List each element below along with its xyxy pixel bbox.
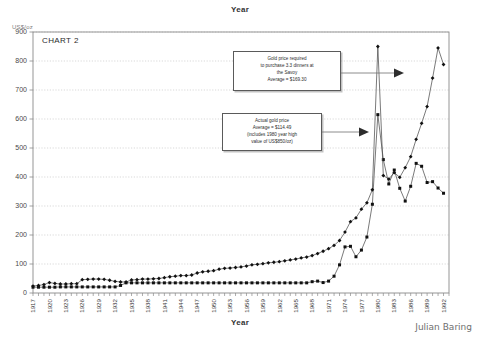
series-marker: [206, 269, 210, 273]
series-marker: [119, 280, 123, 284]
series-marker: [179, 274, 183, 278]
series-marker: [289, 281, 292, 284]
series-marker: [92, 285, 95, 288]
series-marker: [398, 187, 401, 190]
callout-line-1: Actual gold price: [227, 117, 317, 124]
series-marker: [338, 263, 341, 266]
series-marker: [108, 278, 112, 282]
series-marker: [102, 277, 106, 281]
x-tick-label: 1935: [128, 298, 135, 312]
series-marker: [250, 281, 253, 284]
series-marker: [245, 281, 248, 284]
series-marker: [223, 266, 227, 270]
series-marker: [212, 269, 216, 273]
y-tick-marks: [30, 32, 34, 293]
series-marker: [365, 236, 368, 239]
x-tick-label: 1968: [308, 298, 315, 312]
series-marker: [404, 200, 407, 203]
series-marker: [201, 270, 205, 274]
series-marker: [75, 285, 78, 288]
series-marker: [436, 46, 440, 50]
x-tick-label: 1941: [161, 298, 168, 312]
series-marker: [81, 285, 84, 288]
series-marker: [174, 281, 177, 284]
series-marker: [48, 281, 52, 285]
series-marker: [283, 281, 286, 284]
chart-figure: Year US$/oz CHART 2 01002003004005006007…: [0, 0, 480, 342]
series-marker: [414, 137, 418, 141]
series-marker: [179, 281, 182, 284]
series-marker: [376, 45, 380, 49]
series-marker: [305, 255, 309, 259]
x-tick-label: 1983: [390, 298, 397, 312]
gold-price-required-callout: Gold price required to purchase 3.3 dinn…: [233, 51, 341, 91]
series-marker: [354, 255, 357, 258]
series-marker: [245, 264, 249, 268]
series-marker: [267, 281, 270, 284]
series-marker: [294, 257, 298, 261]
callout-line-3: the Savoy: [238, 69, 336, 76]
series-marker: [113, 280, 117, 284]
y-tick-label: 200: [15, 231, 27, 238]
series-marker: [409, 155, 413, 159]
series-marker: [217, 267, 221, 271]
series-marker: [322, 281, 325, 284]
series-marker: [376, 113, 379, 116]
x-tick-label: 1920: [46, 298, 53, 312]
series-marker: [277, 260, 281, 264]
series-marker: [48, 286, 51, 289]
x-tick-label: 1965: [292, 298, 299, 312]
series-marker: [415, 162, 418, 165]
x-tick-label: 1923: [62, 298, 69, 312]
series-marker: [437, 187, 440, 190]
series-marker: [343, 230, 347, 234]
series-marker: [239, 265, 243, 269]
series-marker: [261, 262, 265, 266]
series-marker: [425, 105, 429, 109]
series-marker: [272, 260, 276, 264]
series-marker: [327, 280, 330, 283]
series-marker: [64, 282, 68, 286]
series-marker: [333, 275, 336, 278]
series-marker: [327, 247, 331, 251]
series-marker: [212, 281, 215, 284]
x-tick-label: 1938: [144, 298, 151, 312]
bottom-axis-title: Year: [0, 318, 480, 327]
series-marker: [229, 281, 232, 284]
x-tick-label: 1956: [243, 298, 250, 312]
x-tick-label: 1929: [95, 298, 102, 312]
x-tick-label: 1953: [226, 298, 233, 312]
series-marker: [266, 261, 270, 265]
x-tick-label: 1992: [440, 298, 447, 312]
series-marker: [409, 185, 412, 188]
callout-line-2: Average = $114.49: [227, 124, 317, 131]
series-marker: [69, 282, 73, 286]
series-marker: [136, 281, 139, 284]
x-tick-label: 1959: [259, 298, 266, 312]
series-marker: [403, 166, 407, 170]
series-marker: [207, 281, 210, 284]
series-marker: [349, 245, 352, 248]
series-marker: [310, 254, 314, 258]
series-marker: [426, 181, 429, 184]
callout-line-4: Average = $169.30: [238, 76, 336, 83]
series-marker: [190, 281, 193, 284]
series-marker: [288, 258, 292, 262]
series-marker: [228, 266, 232, 270]
y-tick-label: 100: [15, 260, 27, 267]
series-marker: [163, 281, 166, 284]
series-marker: [256, 262, 260, 266]
series-marker: [86, 285, 89, 288]
callout-line-3: (includes 1980 year high: [227, 131, 317, 138]
series-marker: [420, 121, 424, 125]
callout-line-4: value of US$850/oz): [227, 138, 317, 145]
series-marker: [223, 281, 226, 284]
x-tick-label: 1932: [111, 298, 118, 312]
series-marker: [201, 281, 204, 284]
series-marker: [157, 281, 160, 284]
x-tick-label: 1944: [177, 298, 184, 312]
y-tick-label: 800: [15, 57, 27, 64]
series-marker: [256, 281, 259, 284]
series-marker: [360, 249, 363, 252]
actual-gold-price-callout: Actual gold price Average = $114.49 (inc…: [222, 113, 322, 151]
